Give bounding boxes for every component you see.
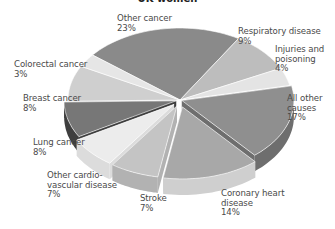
label-injuries-poisoning: Injuries and poisoning 4% [275, 45, 324, 74]
label-colorectal-cancer: Colorectal cancer 3% [14, 60, 87, 79]
label-coronary-heart-disease: Coronary heart disease 14% [221, 189, 284, 218]
label-other-cardiovascular-disease: Other cardio- vascular disease 7% [47, 171, 117, 200]
label-lung-cancer: Lung cancer 8% [33, 138, 85, 157]
label-all-other-causes: All other causes 17% [287, 94, 322, 123]
label-other-cancer: Other cancer 23% [117, 14, 172, 33]
label-stroke: Stroke 7% [140, 194, 167, 213]
label-breast-cancer: Breast cancer 8% [23, 94, 81, 113]
